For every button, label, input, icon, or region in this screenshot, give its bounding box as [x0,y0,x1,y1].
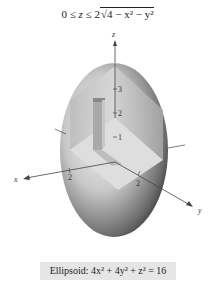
column-front [93,100,102,150]
z-tick-1: 1 [118,133,122,142]
y-axis-label: y [197,206,202,215]
x-axis-label: x [13,175,18,184]
x-axis-back [168,145,185,148]
y-axis-arrow-icon [186,201,193,207]
z-axis-arrow-icon [113,40,117,46]
x-tick-2: 2 [68,173,72,182]
x-axis-arrow-icon [23,175,30,180]
z-tick-2: 2 [118,109,122,118]
y-tick-2: 2 [136,179,140,188]
caption-text: Ellipsoid: 4x² + 4y² + z² = 16 [50,265,167,276]
caption: Ellipsoid: 4x² + 4y² + z² = 16 [40,262,176,280]
z-tick-3: 3 [118,85,122,94]
z-axis-label: z [111,30,116,39]
ellipsoid-figure: z 3 2 1 x 2 y 2 [0,0,216,285]
column-side [102,100,105,150]
